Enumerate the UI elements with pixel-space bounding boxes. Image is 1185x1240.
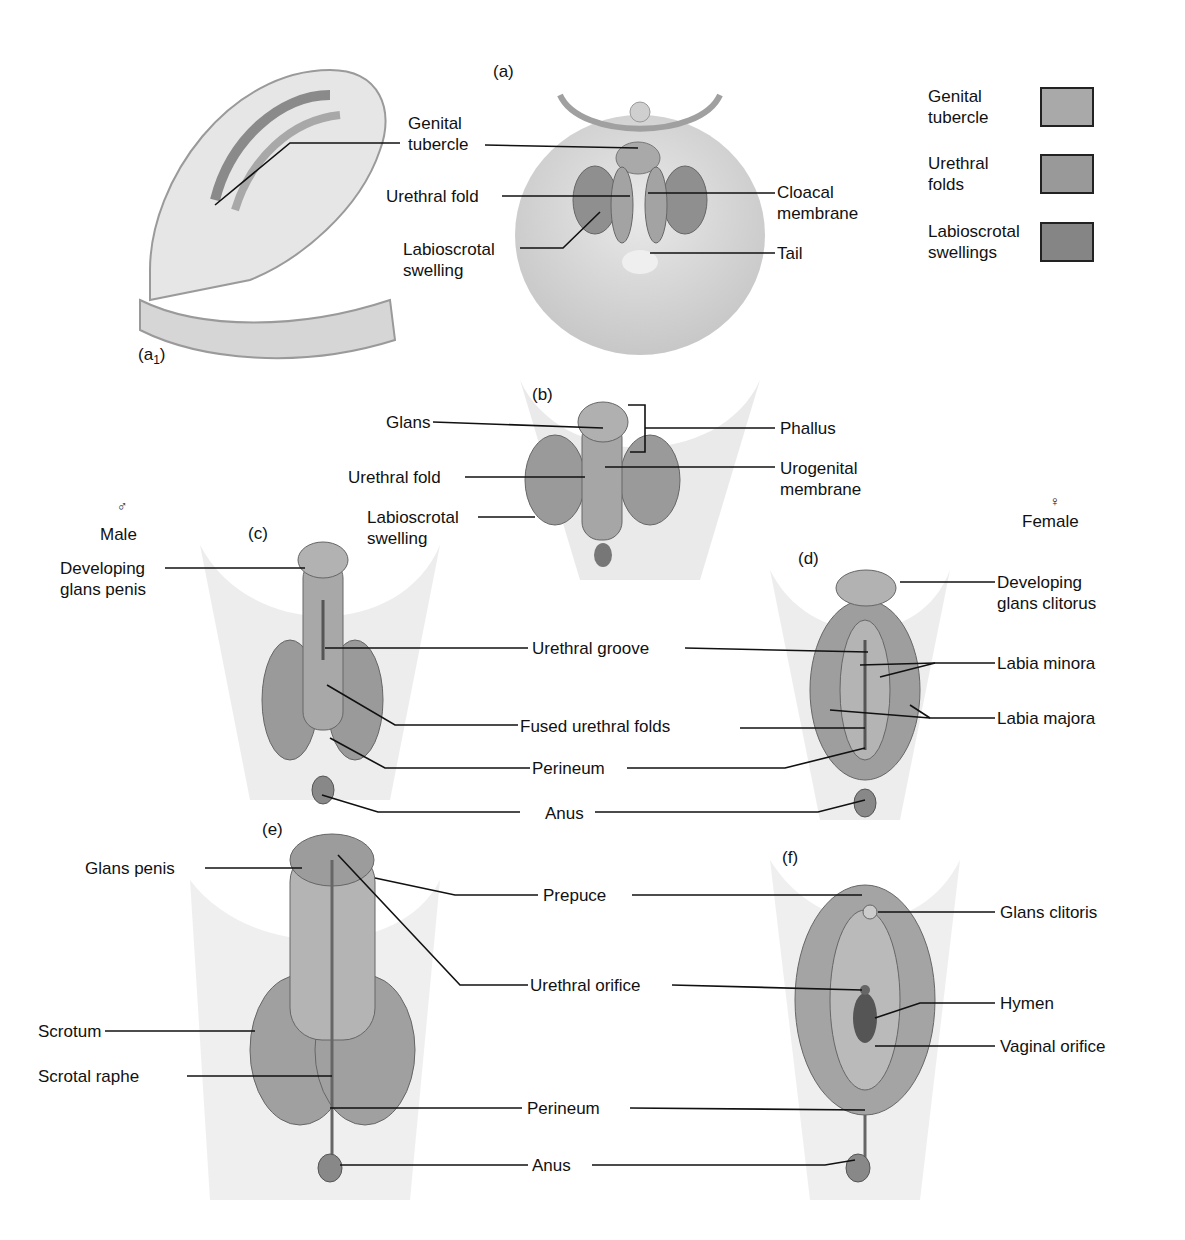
female-label: Female xyxy=(1022,511,1079,532)
label-hymen: Hymen xyxy=(1000,993,1054,1014)
label-urogenital-membrane: Urogenitalmembrane xyxy=(780,458,861,500)
label-labioscrotal-swelling-a: Labioscrotalswelling xyxy=(403,239,495,281)
label-anus-ef: Anus xyxy=(532,1155,571,1176)
panel-label-c: (c) xyxy=(248,524,268,544)
label-fused-urethral-folds: Fused urethral folds xyxy=(520,716,670,737)
label-labia-minora: Labia minora xyxy=(997,653,1095,674)
label-developing-glans-clitorus: Developingglans clitorus xyxy=(997,572,1096,614)
indifferent-stage-a xyxy=(515,95,765,355)
panel-label-a1: (a1) xyxy=(138,345,165,367)
legend-genital-tubercle: Genitaltubercle xyxy=(928,86,1094,128)
label-glans-penis: Glans penis xyxy=(85,858,175,879)
label-urethral-groove: Urethral groove xyxy=(532,638,649,659)
label-perineum-cd: Perineum xyxy=(532,758,605,779)
male-label: Male xyxy=(100,524,137,545)
legend-swatch-urethral-folds xyxy=(1040,154,1094,194)
panel-label-d: (d) xyxy=(798,549,819,569)
label-scrotal-raphe: Scrotal raphe xyxy=(38,1066,139,1087)
embryo-section-a1 xyxy=(140,70,395,358)
label-vaginal-orifice: Vaginal orifice xyxy=(1000,1036,1106,1057)
legend-swatch-genital-tubercle xyxy=(1040,87,1094,127)
legend-labioscrotal-swellings: Labioscrotalswellings xyxy=(928,221,1094,263)
panel-label-a: (a) xyxy=(493,62,514,82)
stage-c-male xyxy=(200,542,440,804)
label-labia-majora: Labia majora xyxy=(997,708,1095,729)
label-scrotum: Scrotum xyxy=(38,1021,101,1042)
label-urethral-fold-a: Urethral fold xyxy=(386,186,479,207)
label-labioscrotal-swelling-b: Labioscrotalswelling xyxy=(367,507,459,549)
label-genital-tubercle: Genitaltubercle xyxy=(408,113,468,155)
label-glans: Glans xyxy=(386,412,430,433)
legend-urethral-folds: Urethralfolds xyxy=(928,153,1094,195)
panel-label-e: (e) xyxy=(262,820,283,840)
female-symbol: ♀ xyxy=(1045,493,1065,509)
panel-label-b: (b) xyxy=(532,385,553,405)
stage-b xyxy=(520,380,760,580)
label-perineum-ef: Perineum xyxy=(527,1098,600,1119)
stage-f-female xyxy=(770,860,960,1200)
label-glans-clitoris: Glans clitoris xyxy=(1000,902,1097,923)
label-cloacal-membrane: Cloacalmembrane xyxy=(777,182,858,224)
label-prepuce: Prepuce xyxy=(543,885,606,906)
male-symbol: ♂ xyxy=(112,498,132,514)
label-phallus: Phallus xyxy=(780,418,836,439)
label-anus-cd: Anus xyxy=(545,803,584,824)
legend-swatch-labioscrotal-swellings xyxy=(1040,222,1094,262)
panel-label-f: (f) xyxy=(782,848,798,868)
label-developing-glans-penis: Developingglans penis xyxy=(60,558,146,600)
stage-d-female xyxy=(770,570,950,820)
label-urethral-orifice: Urethral orifice xyxy=(530,975,641,996)
stage-e-male xyxy=(190,834,440,1200)
label-urethral-fold-b: Urethral fold xyxy=(348,467,441,488)
label-tail: Tail xyxy=(777,243,803,264)
